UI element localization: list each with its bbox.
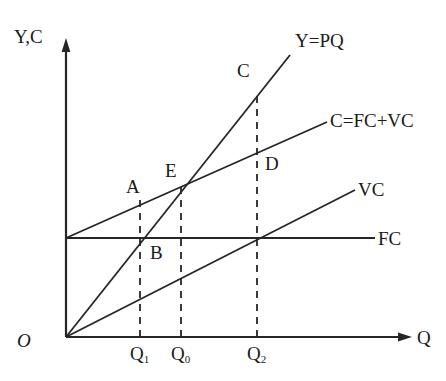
x-axis bbox=[66, 333, 412, 342]
y-axis bbox=[62, 38, 71, 337]
total-cost-curve-label: C=FC+VC bbox=[330, 111, 414, 130]
break-even-chart: Y,C Q O Y=PQ C=FC+VC VC FC A B C D E Q1 … bbox=[0, 0, 446, 381]
x-tick-q2-sub: 2 bbox=[261, 353, 267, 365]
x-tick-label-q0: Q0 bbox=[171, 344, 190, 363]
variable-cost-line bbox=[66, 190, 355, 337]
point-label-a: A bbox=[126, 177, 140, 196]
x-tick-q0-main: Q bbox=[171, 343, 185, 364]
point-label-c: C bbox=[237, 61, 250, 80]
revenue-curve-label: Y=PQ bbox=[295, 31, 344, 50]
x-tick-label-q2: Q2 bbox=[247, 344, 266, 363]
origin-label: O bbox=[17, 331, 31, 350]
point-label-b: B bbox=[150, 243, 163, 262]
x-tick-q2-main: Q bbox=[247, 343, 261, 364]
point-label-e: E bbox=[165, 161, 177, 180]
total-cost-line bbox=[66, 122, 327, 238]
x-axis-label: Q bbox=[417, 328, 431, 347]
y-axis-label: Y,C bbox=[14, 27, 43, 46]
x-tick-label-q1: Q1 bbox=[130, 344, 149, 363]
x-tick-q1-main: Q bbox=[130, 343, 144, 364]
variable-cost-curve-label: VC bbox=[358, 180, 384, 199]
x-tick-q1-sub: 1 bbox=[144, 353, 150, 365]
point-label-d: D bbox=[265, 154, 279, 173]
fixed-cost-curve-label: FC bbox=[378, 229, 401, 248]
x-tick-q0-sub: 0 bbox=[185, 353, 191, 365]
